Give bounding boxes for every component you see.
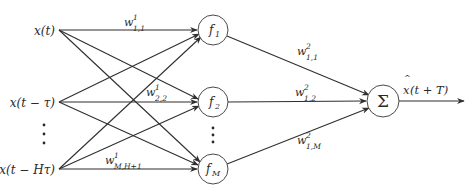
svg-text:1,2: 1,2 <box>304 94 316 103</box>
weight-w2-11: w 2 1,1 <box>297 42 318 62</box>
sum-node: Σ <box>367 85 399 117</box>
edge-in2-fM <box>59 102 198 165</box>
svg-text:2,2: 2,2 <box>154 94 167 103</box>
edge-f2-sum <box>228 101 366 102</box>
output-rest: (t + T) <box>410 83 448 97</box>
hidden-node-fM: f M <box>198 154 228 184</box>
edge-in1-fM <box>59 30 200 162</box>
edge-in3-f1 <box>59 37 201 169</box>
output-base: x <box>403 83 410 97</box>
svg-text:1: 1 <box>133 13 138 22</box>
f1-sub: 1 <box>215 30 220 39</box>
svg-text:2: 2 <box>303 83 309 92</box>
neural-network-diagram: x(t) x(t − τ) x(t − Hτ) f 1 f 2 f M Σ ^ … <box>0 0 474 196</box>
edge-in2-f1 <box>59 34 199 102</box>
svg-text:2: 2 <box>305 131 311 140</box>
weight-w1-MH1: w 1 M,H+1 <box>105 151 142 171</box>
hidden-node-f1: f 1 <box>198 15 228 45</box>
weight-w2-12: w 2 1,2 <box>295 83 316 103</box>
output-hat: ^ <box>404 73 411 82</box>
svg-text:M,H+1: M,H+1 <box>113 162 142 171</box>
hidden-ellipsis <box>212 127 215 144</box>
svg-text:2: 2 <box>305 42 311 51</box>
sigma-symbol: Σ <box>377 91 389 111</box>
input-label-3: x(t − Hτ) <box>0 163 55 177</box>
layer1-edges <box>59 30 201 169</box>
output-label: ^ x (t + T) <box>403 73 448 97</box>
weight-w2-1M: w 2 1,M <box>297 131 321 151</box>
edge-in3-f2 <box>59 106 199 169</box>
f2-sub: 2 <box>214 102 220 111</box>
svg-text:1,1: 1,1 <box>133 24 145 33</box>
hidden-node-f2: f 2 <box>198 87 228 117</box>
weight-w1-22: w 1 2,2 <box>146 83 167 103</box>
svg-text:1: 1 <box>114 151 119 160</box>
svg-text:1,1: 1,1 <box>306 53 318 62</box>
svg-text:1: 1 <box>155 83 160 92</box>
input-label-2: x(t − τ) <box>10 96 56 110</box>
edge-in1-f2 <box>59 30 198 99</box>
svg-text:1,M: 1,M <box>306 142 321 151</box>
input-label-1: x(t) <box>34 24 55 38</box>
input-ellipsis <box>43 124 46 145</box>
fM-sub: M <box>211 169 221 178</box>
